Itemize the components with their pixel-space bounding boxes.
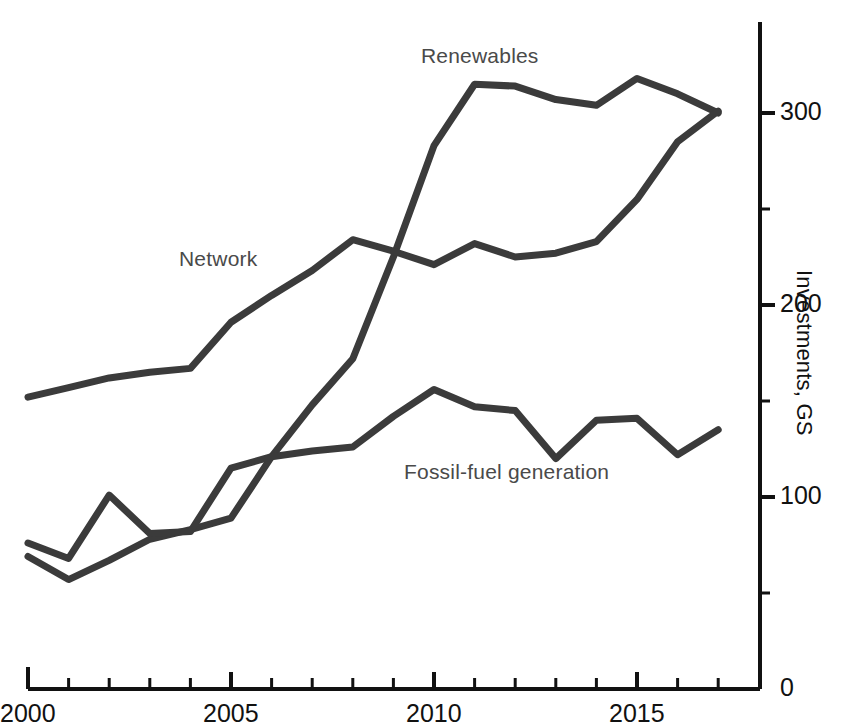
line-chart: Renewables Network Fossil-fuel generatio…: [0, 0, 850, 722]
series-label-renewables: Renewables: [421, 44, 539, 68]
y-tick-label-300: 300: [780, 97, 822, 126]
x-tick-label-2015: 2015: [609, 699, 665, 722]
axes: [28, 22, 775, 689]
series-label-network: Network: [179, 247, 257, 271]
series-lines: [28, 78, 718, 579]
y-tick-label-200: 200: [780, 289, 822, 318]
y-tick-label-0: 0: [780, 673, 794, 702]
series-label-fossil-fuel-generation: Fossil-fuel generation: [404, 460, 609, 484]
x-tick-label-2010: 2010: [406, 699, 462, 722]
y-tick-label-100: 100: [780, 481, 822, 510]
x-tick-label-2000: 2000: [0, 699, 56, 722]
x-tick-label-2005: 2005: [203, 699, 259, 722]
plot-area: [0, 0, 850, 722]
